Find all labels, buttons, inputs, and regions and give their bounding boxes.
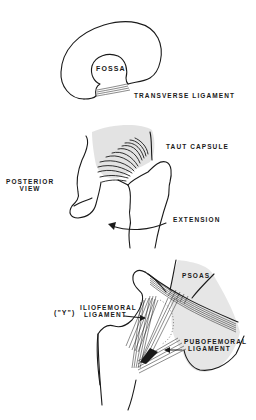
transverse-ligament-label: TRANSVERSE LIGAMENT [134, 92, 235, 99]
iliofemoral-prefix-label: ("Y") [54, 309, 75, 317]
iliofemoral-line2: LIGAMENT [80, 311, 137, 318]
pubofemoral-ligament-label: PUBOFEMORAL LIGAMENT [184, 338, 247, 353]
posterior-view-line2: VIEW [6, 185, 54, 192]
anterior-ligaments-figure: PSOAS ("Y") ILIOFEMORAL LIGAMENT PUBOFEM… [0, 260, 256, 420]
acetabulum-figure: FOSSA TRANSVERSE LIGAMENT [0, 0, 256, 110]
extension-label: EXTENSION [173, 216, 220, 223]
iliofemoral-ligament-label: ILIOFEMORAL LIGAMENT [80, 304, 137, 319]
posterior-view-line1: POSTERIOR [6, 178, 54, 185]
taut-capsule-label: TAUT CAPSULE [166, 143, 229, 150]
posterior-view-label: POSTERIOR VIEW [6, 178, 54, 193]
iliofemoral-line1: ILIOFEMORAL [80, 304, 137, 311]
psoas-label: PSOAS [182, 272, 210, 279]
pubofemoral-line2: LIGAMENT [184, 345, 247, 352]
pubofemoral-line1: PUBOFEMORAL [184, 338, 247, 345]
posterior-view-figure: POSTERIOR VIEW TAUT CAPSULE EXTENSION [0, 120, 256, 265]
fossa-label: FOSSA [96, 65, 126, 73]
